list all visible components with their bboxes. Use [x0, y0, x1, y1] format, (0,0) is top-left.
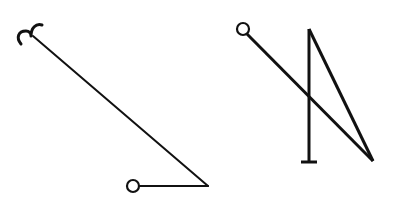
diagram-canvas [0, 0, 393, 203]
open-circle-terminal [237, 23, 249, 35]
left-figure [18, 25, 208, 192]
right-figure [237, 23, 373, 162]
diagonal-line [33, 36, 208, 186]
open-circle-terminal [127, 180, 139, 192]
apex-diagonal-line [309, 29, 373, 161]
diagram-svg [0, 0, 393, 203]
